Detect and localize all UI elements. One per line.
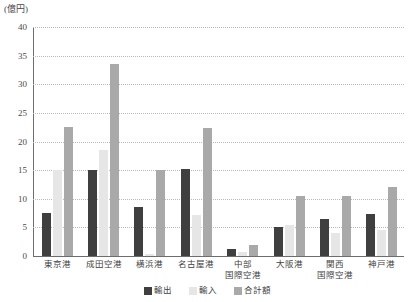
x-axis-label: 名古屋港 [173,259,219,270]
y-tick-label-25: 25 [18,108,27,117]
legend-item-total[interactable]: 合計額 [234,286,271,295]
bar-group [274,27,305,256]
bar-group [366,27,397,256]
legend-swatch-icon [144,287,152,295]
bar [42,213,51,256]
legend-label: 合計額 [244,286,271,295]
x-axis-label-line: 大阪港 [266,259,312,270]
bar [110,64,119,256]
bar [366,214,375,256]
x-axis-label-line: 国際空港 [312,270,358,281]
bar-group [134,27,165,256]
bar [134,207,143,256]
bar [238,252,247,256]
bar-group [88,27,119,256]
x-axis-label: 中部国際空港 [220,259,266,281]
legend-item-import[interactable]: 輸入 [189,286,217,295]
plot-area [33,27,404,256]
x-axis-label-line: 東京港 [34,259,80,270]
bar-group [42,27,73,256]
bar [203,128,212,256]
bar [296,196,305,256]
legend-label: 輸出 [154,286,172,295]
y-tick-label-20: 20 [18,137,27,146]
gridline-0 [33,256,404,257]
x-axis-label: 横浜港 [127,259,173,270]
y-tick-label-15: 15 [18,166,27,175]
bar [320,219,329,256]
bar-group [227,27,258,256]
chart-legend: 輸出輸入合計額 [0,286,415,295]
bar [377,230,386,256]
x-axis-label: 大阪港 [266,259,312,270]
bar [53,170,62,256]
bar [331,233,340,256]
y-tick-label-10: 10 [18,194,27,203]
bar [192,215,201,256]
y-tick-label-35: 35 [18,51,27,60]
y-tick-label-40: 40 [18,23,27,32]
bar-chart: (億円) 0510152025303540 東京港成田空港横浜港名古屋港中部国際… [0,0,415,302]
bar [249,245,258,256]
bar-group [181,27,212,256]
bar [227,249,236,256]
bar [99,150,108,256]
x-axis-label-line: 成田空港 [80,259,126,270]
y-tick-label-30: 30 [18,80,27,89]
bar [274,227,283,256]
bar [181,169,190,256]
x-axis-label: 成田空港 [80,259,126,270]
legend-item-export[interactable]: 輸出 [144,286,172,295]
bar-group [320,27,351,256]
legend-label: 輸入 [199,286,217,295]
bar [342,196,351,256]
bar [156,170,165,256]
x-axis-label-line: 名古屋港 [173,259,219,270]
x-axis-label-line: 国際空港 [220,270,266,281]
y-axis-unit-label: (億円) [4,2,28,15]
bar [145,254,154,256]
x-axis-label-line: 関西 [312,259,358,270]
legend-swatch-icon [234,287,242,295]
bar [285,225,294,256]
legend-swatch-icon [189,287,197,295]
bar [388,187,397,256]
x-axis-label: 関西国際空港 [312,259,358,281]
x-axis-label-line: 中部 [220,259,266,270]
bar [64,127,73,256]
y-axis-tick-labels: 0510152025303540 [0,27,31,256]
x-axis-label: 神戸港 [359,259,405,270]
y-tick-label-5: 5 [23,223,28,232]
x-axis-label-line: 神戸港 [359,259,405,270]
x-axis-label-line: 横浜港 [127,259,173,270]
bar-groups [33,27,404,256]
y-tick-label-0: 0 [23,252,28,261]
x-axis-label: 東京港 [34,259,80,270]
bar [88,170,97,256]
